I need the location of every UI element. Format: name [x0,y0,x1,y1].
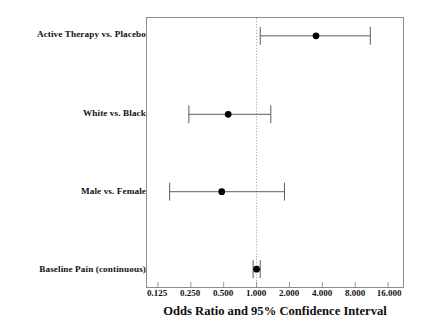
point-estimate-marker [313,32,320,39]
point-estimate-marker [218,188,225,195]
xtick-label-3: 1.000 [246,289,266,298]
forest-plot-figure: Active Therapy vs. Placebo White vs. Bla… [0,0,427,332]
forest-row-0 [260,27,370,45]
xtick-label-1: 0.250 [180,289,200,298]
row-label-white-vs-black: White vs. Black [83,109,146,118]
x-axis-title: Odds Ratio and 95% Confidence Interval [146,305,404,318]
xtick-label-6: 8.000 [345,289,365,298]
xtick-label-0: 0.125 [147,289,167,298]
plot-canvas [147,18,403,287]
point-estimate-marker [253,266,260,273]
xtick-label-5: 4.000 [312,289,332,298]
plot-area [146,17,404,288]
xtick-label-7: 16.000 [377,289,402,298]
row-label-male-vs-female: Male vs. Female [81,187,146,196]
forest-row-1 [189,105,271,123]
row-label-active-therapy-vs-placebo: Active Therapy vs. Placebo [37,30,146,39]
point-estimate-marker [225,111,232,118]
xtick-label-4: 2.000 [279,289,299,298]
xtick-label-2: 0.500 [213,289,233,298]
row-label-baseline-pain-continuous: Baseline Pain (continuous) [39,265,146,274]
forest-row-2 [170,183,285,201]
